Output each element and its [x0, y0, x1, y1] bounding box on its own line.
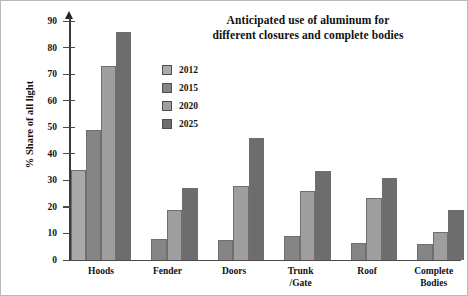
- y-axis-tick-label: 20: [31, 202, 57, 212]
- bar: [101, 66, 116, 260]
- bar-group: Doors: [204, 21, 264, 260]
- chart-figure: Anticipated use of aluminum for differen…: [0, 0, 468, 296]
- y-axis-tick-label: 40: [31, 149, 57, 159]
- y-axis-tick-labels: 0102030405060708090: [27, 1, 57, 296]
- bar: [417, 244, 433, 260]
- bar: [71, 170, 86, 260]
- bar: [182, 188, 198, 260]
- bar-group-bars: [337, 21, 397, 260]
- x-axis-category-label-line-1: Trunk: [288, 266, 314, 276]
- bar-group-bars: [404, 21, 464, 260]
- x-axis-category-label: Trunk/Gate: [288, 265, 314, 289]
- y-axis-tick-label: 90: [31, 16, 57, 26]
- x-axis-line: [63, 260, 461, 261]
- bar: [284, 236, 300, 260]
- bar: [351, 243, 367, 260]
- x-axis-category-label-line-2: Bodies: [414, 277, 453, 289]
- bar: [448, 210, 464, 260]
- y-axis-tick-label: 80: [31, 43, 57, 53]
- y-axis-tick-label: 10: [31, 228, 57, 238]
- y-axis-tick-label: 70: [31, 69, 57, 79]
- plot-area: HoodsFenderDoorsTrunk/GateRoofCompleteBo…: [70, 21, 456, 260]
- bar: [249, 138, 265, 260]
- y-axis-tick-label: 0: [31, 255, 57, 265]
- y-axis-tick-label: 30: [31, 175, 57, 185]
- x-axis-category-label-line-1: Complete: [414, 266, 453, 276]
- x-axis-category-label: Roof: [357, 265, 377, 277]
- bar-group-bars: [271, 21, 331, 260]
- x-axis-category-label: Doors: [222, 265, 246, 277]
- y-axis-tick-label: 50: [31, 122, 57, 132]
- y-axis-tick-label: 60: [31, 96, 57, 106]
- x-axis-category-label-line-2: /Gate: [288, 277, 314, 289]
- bar-group-bars: [204, 21, 264, 260]
- x-axis-category-label-line-1: Roof: [357, 266, 377, 276]
- bar: [167, 210, 183, 260]
- bar: [86, 130, 101, 260]
- bar-group: Fender: [138, 21, 198, 260]
- bar-group: Hoods: [71, 21, 131, 260]
- bar: [366, 198, 382, 260]
- x-axis-category-label-line-1: Fender: [153, 266, 182, 276]
- bar: [300, 191, 316, 260]
- bar-group: Roof: [337, 21, 397, 260]
- bar-group: CompleteBodies: [404, 21, 464, 260]
- bar-group-bars: [71, 21, 131, 260]
- x-axis-category-label: CompleteBodies: [414, 265, 453, 289]
- x-axis-category-label: Fender: [153, 265, 182, 277]
- bar: [151, 239, 167, 260]
- bar-group-bars: [138, 21, 198, 260]
- bar: [382, 178, 398, 260]
- bar: [315, 171, 331, 260]
- bar: [218, 240, 234, 260]
- x-axis-category-label-line-1: Doors: [222, 266, 246, 276]
- x-axis-category-label-line-1: Hoods: [88, 266, 114, 276]
- bar: [433, 232, 449, 260]
- bar: [233, 186, 249, 260]
- bar-group: Trunk/Gate: [271, 21, 331, 260]
- bar: [116, 32, 131, 260]
- x-axis-category-label: Hoods: [88, 265, 114, 277]
